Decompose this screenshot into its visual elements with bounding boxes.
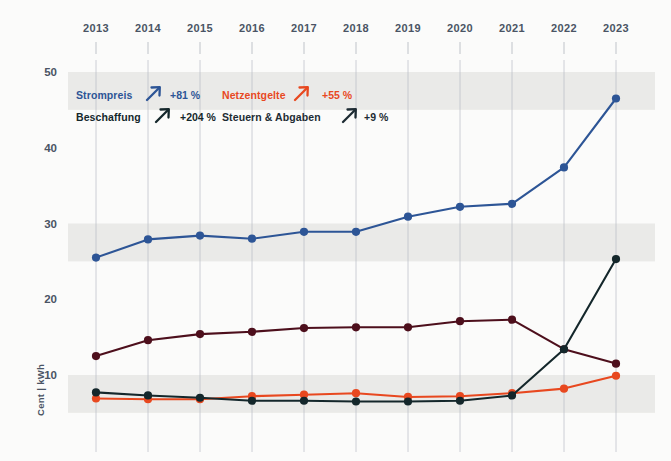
data-point xyxy=(612,255,620,263)
y-tick-label: 40 xyxy=(44,142,57,154)
data-point xyxy=(352,323,360,331)
data-point xyxy=(612,94,620,102)
x-tick-label: 2018 xyxy=(343,22,369,34)
y-tick-label: 50 xyxy=(44,66,57,78)
data-point xyxy=(352,228,360,236)
legend-label: Netzentgelte xyxy=(222,89,286,101)
data-point xyxy=(92,388,100,396)
x-tick-label: 2022 xyxy=(551,22,577,34)
data-point xyxy=(300,228,308,236)
data-point xyxy=(560,345,568,353)
chart-container: 2013201420152016201720182019202020212022… xyxy=(0,0,671,461)
data-point xyxy=(508,200,516,208)
data-point xyxy=(404,323,412,331)
line-chart: 2013201420152016201720182019202020212022… xyxy=(0,0,671,461)
data-point xyxy=(612,372,620,380)
data-point xyxy=(196,330,204,338)
x-tick-label: 2013 xyxy=(83,22,109,34)
x-tick-label: 2023 xyxy=(603,22,629,34)
data-point xyxy=(196,394,204,402)
legend-item: Beschaffung+204 % xyxy=(76,109,217,123)
data-point xyxy=(456,317,464,325)
data-point xyxy=(144,391,152,399)
data-point xyxy=(248,328,256,336)
y-axis-title: Cent | kWh xyxy=(35,364,46,416)
x-axis-tick-labels: 2013201420152016201720182019202020212022… xyxy=(83,22,629,34)
x-tick-label: 2015 xyxy=(187,22,213,34)
legend-change-value: +81 % xyxy=(170,89,201,101)
trend-up-arrow-icon xyxy=(343,109,356,122)
data-point xyxy=(144,336,152,344)
legend-label: Steuern & Abgaben xyxy=(222,111,321,123)
data-point xyxy=(404,213,412,221)
data-point xyxy=(248,235,256,243)
data-point xyxy=(404,397,412,405)
x-tick-label: 2016 xyxy=(239,22,265,34)
data-point xyxy=(300,397,308,405)
legend-change-value: +55 % xyxy=(322,89,353,101)
data-point xyxy=(92,352,100,360)
x-tick-label: 2017 xyxy=(291,22,317,34)
data-point xyxy=(456,203,464,211)
data-point xyxy=(508,391,516,399)
data-point xyxy=(92,253,100,261)
trend-up-arrow-icon xyxy=(156,109,169,122)
x-tick-label: 2019 xyxy=(395,22,421,34)
y-tick-label: 20 xyxy=(44,293,57,305)
data-point xyxy=(612,360,620,368)
data-point xyxy=(300,324,308,332)
legend-label: Beschaffung xyxy=(76,111,141,123)
x-tick-label: 2021 xyxy=(499,22,525,34)
data-point xyxy=(248,397,256,405)
data-point xyxy=(144,235,152,243)
y-tick-label: 30 xyxy=(44,218,57,230)
legend-change-value: +9 % xyxy=(364,111,389,123)
y-tick-label: 10 xyxy=(44,369,57,381)
x-tick-label: 2020 xyxy=(447,22,473,34)
data-point xyxy=(560,385,568,393)
legend-change-value: +204 % xyxy=(180,111,217,123)
legend-label: Strompreis xyxy=(76,89,132,101)
x-tick-label: 2014 xyxy=(135,22,162,34)
data-point xyxy=(352,389,360,397)
data-point xyxy=(560,163,568,171)
legend-item: Steuern & Abgaben+9 % xyxy=(222,109,389,123)
data-point xyxy=(456,397,464,405)
data-point xyxy=(196,232,204,240)
data-point xyxy=(508,316,516,324)
data-point xyxy=(352,397,360,405)
y-axis-tick-labels: 1020304050 xyxy=(44,66,57,381)
